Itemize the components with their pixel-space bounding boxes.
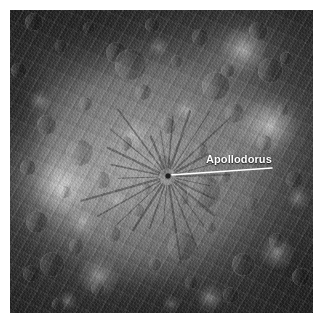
mercury-surface-image: Apollodorus [10,10,313,313]
apollodorus-label: Apollodorus [206,153,272,165]
apollodorus-figure: Apollodorus [0,0,325,328]
